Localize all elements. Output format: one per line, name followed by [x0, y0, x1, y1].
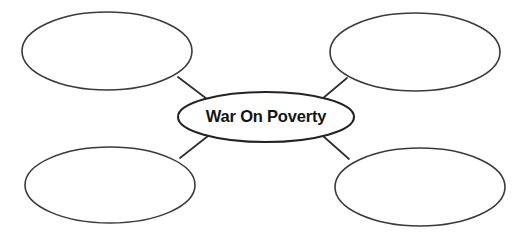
branch-node-top-left[interactable] — [22, 12, 192, 90]
center-node[interactable]: War On Poverty — [178, 92, 354, 142]
branch-ellipse-bottom-left[interactable] — [25, 147, 195, 223]
connector-bottom-right-to-center — [323, 136, 349, 159]
branch-node-bottom-right[interactable] — [335, 148, 505, 226]
connector-top-left-to-center — [178, 77, 207, 99]
center-topic-label: War On Poverty — [206, 107, 327, 125]
concept-map-diagram: War On Poverty — [0, 0, 520, 234]
worksheet-canvas: War On Poverty — [0, 0, 520, 234]
branch-node-top-right[interactable] — [330, 13, 500, 91]
branch-ellipse-top-left[interactable] — [22, 12, 192, 90]
connector-top-right-to-center — [322, 78, 347, 99]
branch-node-bottom-left[interactable] — [25, 147, 195, 223]
connector-bottom-left-to-center — [180, 136, 208, 158]
branch-ellipse-bottom-right[interactable] — [335, 148, 505, 226]
branch-ellipse-top-right[interactable] — [330, 13, 500, 91]
